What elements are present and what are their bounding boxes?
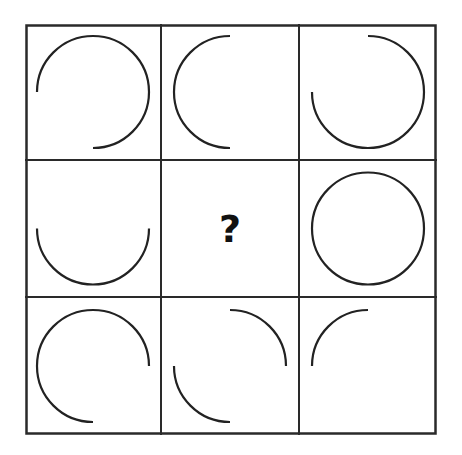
puzzle-cell — [37, 36, 149, 148]
puzzle-cell — [174, 310, 286, 422]
circle-arc — [312, 36, 424, 148]
puzzle-cell — [37, 229, 149, 285]
puzzle-cell[interactable]: ? — [219, 207, 241, 251]
puzzle-cell — [312, 173, 424, 285]
question-mark: ? — [219, 207, 241, 251]
puzzle-grid: ? — [25, 24, 437, 435]
full-circle — [312, 173, 424, 285]
circle-arc — [174, 366, 230, 422]
circle-arc — [230, 310, 286, 366]
puzzle-cell — [312, 36, 424, 148]
circle-arc — [37, 229, 149, 285]
circle-arc — [37, 310, 149, 422]
circle-arc — [174, 36, 230, 148]
puzzle-canvas: ? — [25, 24, 437, 435]
puzzle-cell — [37, 310, 149, 422]
puzzle-cell — [312, 310, 368, 366]
circle-arc — [312, 310, 368, 366]
puzzle-cell — [174, 36, 230, 148]
circle-arc — [37, 36, 149, 148]
